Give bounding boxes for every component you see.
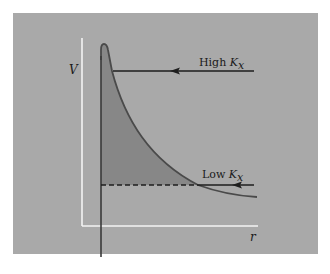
- panel-background: [13, 13, 318, 254]
- y-axis-label: V: [69, 63, 79, 77]
- potential-energy-diagram: V r High Kx Low Kx: [0, 0, 330, 274]
